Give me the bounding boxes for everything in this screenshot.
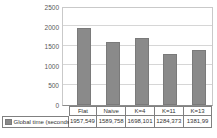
value-cell: 1698,101: [126, 116, 155, 128]
bar: [163, 54, 177, 104]
value-row: Global time (seconds) 1957,5491589,75816…: [2, 116, 212, 128]
y-axis-label: 500: [3, 82, 59, 89]
category-cell: K=4: [126, 106, 155, 116]
data-table: FlatNaiveK=4K=11K=13 Global time (second…: [2, 106, 212, 128]
category-cell: K=13: [184, 106, 213, 116]
category-row: FlatNaiveK=4K=11K=13: [69, 106, 213, 116]
category-cell: K=11: [155, 106, 184, 116]
value-cell: 1381,99: [184, 116, 213, 128]
bar: [77, 28, 91, 105]
value-cell: 1957,549: [69, 116, 98, 128]
value-cell: 1589,758: [97, 116, 126, 128]
gridline: [63, 25, 212, 26]
legend-cell: Global time (seconds): [2, 116, 69, 128]
bar: [106, 42, 120, 104]
legend-label: Global time (seconds): [14, 119, 72, 125]
plot-area: [62, 7, 213, 106]
category-cell: Naive: [97, 106, 126, 116]
y-axis-label: 1000: [3, 63, 59, 70]
legend-key-icon: [5, 119, 12, 126]
value-cell: 1284,373: [155, 116, 184, 128]
category-cell: Flat: [69, 106, 98, 116]
y-axis-label: 2500: [3, 4, 59, 11]
y-axis-label: 2000: [3, 24, 59, 31]
bar-chart: 05001000150020002500 FlatNaiveK=4K=11K=1…: [0, 0, 217, 138]
y-axis-label: 1500: [3, 43, 59, 50]
bar: [135, 38, 149, 105]
bar: [192, 50, 206, 104]
